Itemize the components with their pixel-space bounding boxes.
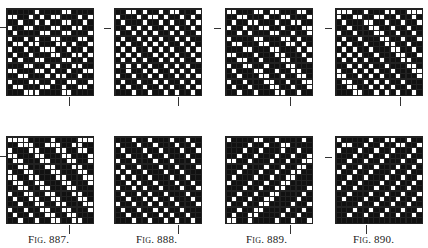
filled-cell (412, 26, 416, 30)
filled-cell (153, 186, 157, 190)
filled-cell (116, 181, 120, 185)
filled-cell (412, 58, 416, 62)
empty-cell (186, 192, 190, 196)
filled-cell (121, 170, 125, 174)
filled-cell (137, 47, 141, 51)
filled-cell (13, 192, 17, 196)
filled-cell (417, 154, 421, 158)
filled-cell (180, 202, 184, 206)
filled-cell (243, 37, 247, 41)
filled-cell (358, 42, 362, 46)
filled-cell (191, 148, 195, 152)
filled-cell (13, 26, 17, 30)
filled-cell (243, 10, 247, 14)
filled-cell (391, 15, 395, 19)
filled-cell (254, 47, 258, 51)
filled-cell (62, 197, 66, 201)
empty-cell (407, 202, 411, 206)
filled-cell (302, 90, 306, 94)
filled-cell (45, 15, 49, 19)
filled-cell (307, 10, 311, 14)
filled-cell (67, 202, 71, 206)
filled-cell (126, 218, 130, 222)
filled-cell (186, 10, 190, 14)
filled-cell (417, 138, 421, 142)
filled-cell (56, 192, 60, 196)
filled-cell (237, 159, 241, 163)
filled-cell (83, 80, 87, 84)
empty-cell (264, 26, 268, 30)
filled-cell (380, 165, 384, 169)
filled-cell (24, 58, 28, 62)
filled-cell (374, 20, 378, 24)
empty-cell (407, 85, 411, 89)
filled-cell (116, 197, 120, 201)
empty-cell (417, 69, 421, 73)
empty-cell (264, 80, 268, 84)
filled-cell (291, 138, 295, 142)
filled-cell (227, 31, 231, 35)
empty-cell (297, 197, 301, 201)
filled-cell (385, 53, 389, 57)
filled-cell (412, 159, 416, 163)
empty-cell (259, 74, 263, 78)
row-pointer-mark (0, 156, 6, 157)
empty-cell (286, 64, 290, 68)
filled-cell (347, 15, 351, 19)
filled-cell (132, 37, 136, 41)
empty-cell (29, 80, 33, 84)
filled-cell (143, 175, 147, 179)
empty-cell (275, 10, 279, 14)
filled-cell (8, 31, 12, 35)
filled-cell (364, 85, 368, 89)
filled-cell (391, 175, 395, 179)
filled-cell (186, 181, 190, 185)
filled-cell (132, 69, 136, 73)
filled-cell (342, 213, 346, 217)
empty-cell (407, 138, 411, 142)
filled-cell (29, 159, 33, 163)
filled-cell (153, 202, 157, 206)
filled-cell (364, 208, 368, 212)
filled-cell (364, 154, 368, 158)
filled-cell (227, 74, 231, 78)
filled-cell (196, 175, 200, 179)
filled-cell (137, 202, 141, 206)
filled-cell (391, 181, 395, 185)
filled-cell (380, 53, 384, 57)
filled-cell (126, 202, 130, 206)
empty-cell (29, 143, 33, 147)
filled-cell (391, 213, 395, 217)
empty-cell (407, 58, 411, 62)
filled-cell (132, 26, 136, 30)
empty-cell (412, 47, 416, 51)
filled-cell (401, 181, 405, 185)
filled-cell (164, 20, 168, 24)
filled-cell (358, 69, 362, 73)
filled-cell (18, 208, 22, 212)
filled-cell (121, 197, 125, 201)
filled-cell (369, 143, 373, 147)
empty-cell (270, 47, 274, 51)
filled-cell (307, 64, 311, 68)
filled-cell (358, 170, 362, 174)
empty-cell (180, 186, 184, 190)
filled-cell (254, 186, 258, 190)
empty-cell (78, 143, 82, 147)
filled-cell (243, 53, 247, 57)
filled-cell (248, 165, 252, 169)
filled-cell (232, 74, 236, 78)
empty-cell (83, 175, 87, 179)
filled-cell (191, 170, 195, 174)
filled-cell (307, 90, 311, 94)
filled-cell (8, 64, 12, 68)
empty-cell (51, 213, 55, 217)
empty-cell (248, 213, 252, 217)
empty-cell (364, 80, 368, 84)
filled-cell (264, 175, 268, 179)
empty-cell (374, 26, 378, 30)
empty-cell (45, 159, 49, 163)
empty-cell (78, 148, 82, 152)
empty-cell (254, 208, 258, 212)
empty-cell (29, 170, 33, 174)
